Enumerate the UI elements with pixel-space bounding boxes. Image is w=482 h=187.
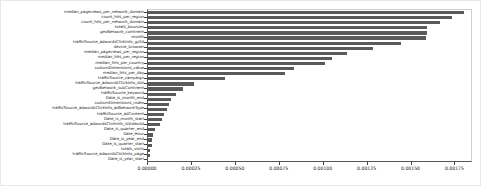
bar-row xyxy=(148,16,473,19)
bar-row xyxy=(148,26,473,29)
bar-row xyxy=(148,21,473,24)
bar-row xyxy=(148,108,473,111)
bar-row xyxy=(148,36,473,39)
y-axis-tick-label: median_hits_per_region xyxy=(98,55,144,59)
bar xyxy=(148,123,160,126)
bar xyxy=(148,42,401,45)
bar-row xyxy=(148,47,473,50)
bar-row xyxy=(148,123,473,126)
y-axis-tick-label: trafficSource_adContent xyxy=(97,112,144,116)
bar-row xyxy=(148,11,473,14)
bar xyxy=(148,98,171,101)
bar-row xyxy=(148,77,473,80)
bar xyxy=(148,133,153,136)
bar-row xyxy=(148,87,473,90)
bar-row xyxy=(148,103,473,106)
bar xyxy=(148,82,194,85)
x-axis-tick-mark xyxy=(454,162,455,165)
bar xyxy=(148,154,150,157)
bar-row xyxy=(148,118,473,121)
bar-row xyxy=(148,52,473,55)
bar-row xyxy=(148,133,473,136)
bar-row xyxy=(148,113,473,116)
bar-row xyxy=(148,72,473,75)
x-axis-tick-mark xyxy=(367,162,368,165)
bar xyxy=(148,47,373,50)
bar-row xyxy=(148,138,473,141)
bar xyxy=(148,21,440,24)
bar xyxy=(148,67,294,70)
bar xyxy=(148,62,325,65)
x-axis-tick-mark xyxy=(411,162,412,165)
bar xyxy=(148,52,347,55)
bar-row xyxy=(148,98,473,101)
bar xyxy=(148,26,427,29)
bar xyxy=(148,31,427,34)
bar-row xyxy=(148,42,473,45)
bar-row xyxy=(148,31,473,34)
bar-row xyxy=(148,149,473,152)
y-axis-labels: median_pageviews_per_network_domaincount… xyxy=(0,9,144,162)
bar-row xyxy=(148,67,473,70)
y-axis-tick-label: median_hits_per_country xyxy=(95,61,144,65)
x-axis-tick-label: 0.00050 xyxy=(225,166,244,171)
y-axis-tick-label: count_hits_per_region xyxy=(101,15,144,19)
bar xyxy=(148,118,162,121)
bar xyxy=(148,36,426,39)
x-axis-tick-label: 0.00075 xyxy=(269,166,288,171)
y-axis-tick-label: customDimensions_value xyxy=(94,66,144,70)
feature-importance-figure: median_pageviews_per_network_domaincount… xyxy=(0,0,482,187)
x-axis-tick-mark xyxy=(279,162,280,165)
bar-row xyxy=(148,154,473,157)
bar xyxy=(148,144,152,147)
x-axis-tick-label: 0.00000 xyxy=(138,166,157,171)
bar-row xyxy=(148,93,473,96)
bar xyxy=(148,77,225,80)
bar xyxy=(148,93,176,96)
bar xyxy=(148,128,155,131)
bar xyxy=(148,113,164,116)
bar xyxy=(148,72,285,75)
bar xyxy=(148,149,150,152)
bar xyxy=(148,11,464,14)
x-axis-tick-label: 0.00025 xyxy=(181,166,200,171)
bar xyxy=(148,57,332,60)
bar xyxy=(148,138,152,141)
y-axis-tick-label: median_pageviews_per_network_domain xyxy=(64,10,144,14)
bar-row xyxy=(148,62,473,65)
bar xyxy=(148,108,167,111)
bar xyxy=(148,87,183,90)
x-axis-tick-label: 0.00175 xyxy=(445,166,464,171)
x-axis-tick-mark xyxy=(147,162,148,165)
x-axis-tick-label: 0.00100 xyxy=(313,166,332,171)
plot-area xyxy=(147,9,472,162)
y-axis-tick-label: trafficSource_adwordsClickInfo_adNetwork… xyxy=(52,106,144,110)
bar xyxy=(148,16,452,19)
y-axis-tick-label: Date_is_year_start xyxy=(108,157,144,161)
x-axis-tick-label: 0.00125 xyxy=(357,166,376,171)
bar-row xyxy=(148,128,473,131)
x-axis-tick-mark xyxy=(323,162,324,165)
bar-row xyxy=(148,82,473,85)
x-axis-tick-label: 0.00150 xyxy=(401,166,420,171)
bar-row xyxy=(148,57,473,60)
bar-row xyxy=(148,159,473,162)
bar-row xyxy=(148,144,473,147)
bar xyxy=(148,103,169,106)
y-axis-tick-label: Date_is_month_start xyxy=(104,117,144,121)
x-axis-tick-mark xyxy=(191,162,192,165)
x-axis-tick-mark xyxy=(235,162,236,165)
